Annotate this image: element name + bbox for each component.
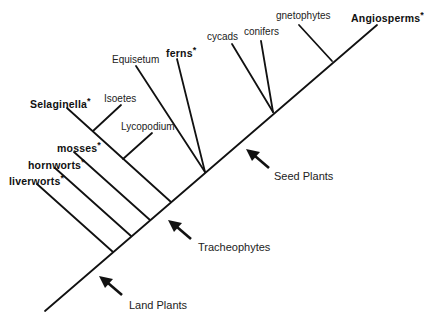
gnetophytes-branch [299, 25, 332, 61]
group-label-tracheophytes: Tracheophytes [198, 242, 270, 253]
taxon-label-selaginella: Selaginella* [30, 99, 91, 110]
taxon-label-conifers: conifers [244, 27, 279, 37]
land-plants-arrow-icon [99, 276, 122, 295]
liverworts-branch [37, 184, 113, 252]
taxon-label-ferns: ferns* [166, 48, 196, 59]
taxon-label-gnetophytes: gnetophytes [276, 11, 331, 21]
seed-plants-arrow-icon [246, 149, 269, 168]
taxon-label-isoetes: Isoetes [104, 94, 136, 104]
taxon-label-cycads: cycads [207, 32, 238, 42]
taxon-label-lycopodium: Lycopodium [121, 122, 175, 132]
lycopodium-branch [123, 133, 152, 159]
taxon-label-mosses: mosses* [57, 143, 101, 154]
taxon-label-liverworts: liverworts* [9, 176, 64, 187]
taxon-label-angiosperms: Angiosperms* [351, 13, 424, 24]
taxon-label-hornworts: hornworts* [28, 160, 85, 171]
taxon-label-equisetum: Equisetum [112, 55, 159, 65]
tracheophytes-arrow-icon [168, 220, 191, 239]
ferns-branch [177, 59, 205, 172]
group-label-seed-plants: Seed Plants [274, 171, 333, 182]
hornworts-branch [55, 168, 131, 236]
isoetes-branch [93, 105, 121, 131]
equisetum-branch [136, 66, 205, 172]
group-label-land-plants: Land Plants [129, 300, 187, 311]
trunk-branch [45, 25, 377, 311]
mosses-branch [74, 152, 150, 220]
